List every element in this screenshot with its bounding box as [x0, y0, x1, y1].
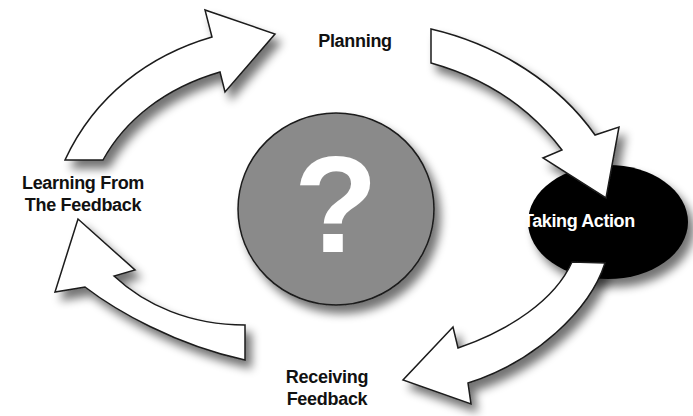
- label-receiving-line1: Receiving: [272, 366, 382, 388]
- label-planning: Planning: [300, 30, 410, 52]
- label-receiving-feedback: Receiving Feedback: [272, 366, 382, 410]
- label-learning-line1: Learning From: [8, 172, 158, 194]
- label-learning-from-feedback: Learning From The Feedback: [8, 172, 158, 216]
- label-learning-line2: The Feedback: [8, 194, 158, 216]
- arrow-planning-to-action: [431, 29, 619, 198]
- arrow-action-to-receiving: [403, 262, 605, 404]
- label-receiving-line2: Feedback: [272, 388, 382, 410]
- arrow-learning-to-planning: [65, 10, 275, 160]
- question-mark-icon: ?: [276, 135, 396, 273]
- label-taking-action: Taking Action: [523, 211, 635, 232]
- arrow-receiving-to-learning: [55, 219, 245, 360]
